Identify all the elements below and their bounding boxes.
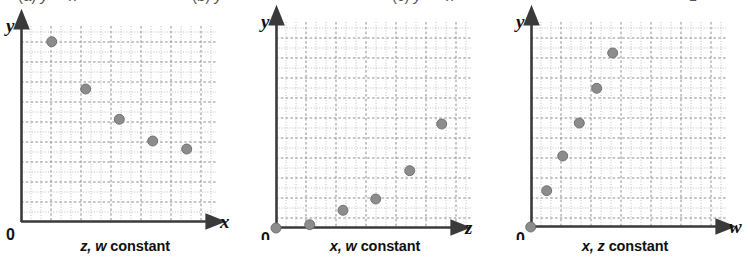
panel-caption-b: x, w constant bbox=[250, 238, 500, 254]
data-point bbox=[182, 144, 192, 154]
data-point bbox=[526, 222, 536, 232]
data-point bbox=[405, 166, 415, 176]
caption-rest-a: constant bbox=[110, 238, 170, 254]
data-point bbox=[81, 84, 91, 94]
data-point bbox=[574, 118, 584, 128]
data-points-a bbox=[47, 37, 192, 154]
data-point bbox=[338, 205, 348, 215]
data-point bbox=[542, 186, 552, 196]
plot-area-a: y x 0 bbox=[0, 0, 250, 240]
grid-vertical-minor-c bbox=[541, 22, 721, 227]
data-point bbox=[271, 223, 281, 233]
data-point bbox=[437, 119, 447, 129]
scatter-panel-c: y w 0 x, z constant bbox=[500, 0, 750, 267]
data-point bbox=[558, 151, 568, 161]
data-points-b bbox=[271, 119, 447, 233]
x-axis-label-a: x bbox=[219, 211, 230, 232]
y-axis-label-a: y bbox=[4, 15, 15, 36]
data-point bbox=[114, 114, 124, 124]
data-points-c bbox=[526, 48, 618, 232]
data-point bbox=[371, 194, 381, 204]
data-point bbox=[305, 220, 315, 230]
panel-caption-a: z, w constant bbox=[0, 238, 250, 254]
caption-variables-a: z, w bbox=[80, 238, 106, 254]
grid-vertical-major-b bbox=[306, 22, 456, 228]
data-point bbox=[148, 136, 158, 146]
y-axis-label-b: y bbox=[259, 11, 270, 32]
panel-caption-c: x, z constant bbox=[500, 238, 750, 254]
grid-vertical-major-a bbox=[51, 26, 201, 222]
caption-rest-c: constant bbox=[609, 238, 669, 254]
y-axis-label-c: y bbox=[514, 11, 525, 32]
caption-rest-b: constant bbox=[361, 238, 421, 254]
x-axis-label-c: w bbox=[729, 216, 742, 237]
data-point bbox=[608, 48, 618, 58]
data-point bbox=[47, 37, 57, 47]
caption-variables-b: x, w bbox=[330, 238, 357, 254]
scatter-panel-a: y x 0 z, w constant bbox=[0, 0, 250, 267]
scatter-panel-b: y z 0 x, w constant bbox=[250, 0, 500, 267]
x-axis-label-b: z bbox=[464, 217, 473, 238]
plot-area-b: y z 0 bbox=[250, 0, 500, 240]
data-point bbox=[592, 83, 602, 93]
caption-variables-c: x, z bbox=[582, 238, 605, 254]
plot-area-c: y w 0 bbox=[500, 0, 750, 240]
